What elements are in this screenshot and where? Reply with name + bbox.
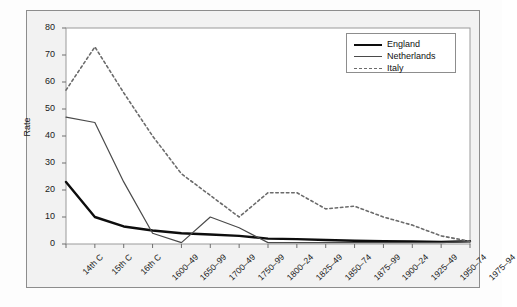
legend-label-england: England	[387, 39, 420, 49]
legend-item-england: England	[354, 38, 420, 50]
chart-legend: England Netherlands Italy	[346, 33, 456, 73]
legend-item-italy: Italy	[354, 62, 404, 74]
legend-item-netherlands: Netherlands	[354, 50, 436, 62]
legend-line-italy-icon	[354, 63, 382, 73]
legend-line-england-icon	[354, 39, 382, 49]
legend-label-netherlands: Netherlands	[387, 51, 436, 61]
legend-label-italy: Italy	[387, 63, 404, 73]
legend-line-netherlands-icon	[354, 51, 382, 61]
